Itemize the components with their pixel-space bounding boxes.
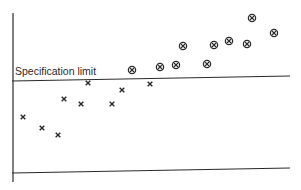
circled-x-marker-icon xyxy=(128,66,135,73)
scatter-chart xyxy=(0,0,301,190)
circled-x-marker-icon xyxy=(156,63,163,70)
x-marker-icon xyxy=(79,102,84,107)
specification-limit-label: Specification limit xyxy=(15,65,96,77)
x-marker-icon xyxy=(120,88,125,93)
circled-x-marker-icon xyxy=(225,37,232,44)
circled-x-marker-icon xyxy=(243,40,250,47)
circled-x-marker-icon xyxy=(172,61,179,68)
circled-x-marker-icon xyxy=(210,41,217,48)
circled-x-marker-icon xyxy=(248,14,255,21)
x-marker-icon xyxy=(56,133,61,138)
circled-x-marker-icon xyxy=(270,29,277,36)
circled-x-marker-icon xyxy=(203,60,210,67)
x-marker-icon xyxy=(148,82,153,87)
circled-x-marker-icon xyxy=(179,42,186,49)
x-marker-icon xyxy=(86,81,91,86)
x-marker-icon xyxy=(110,102,115,107)
x-marker-icon xyxy=(62,97,67,102)
x-axis xyxy=(12,168,290,173)
x-marker-icon xyxy=(40,126,45,131)
x-marker-icon xyxy=(21,115,26,120)
